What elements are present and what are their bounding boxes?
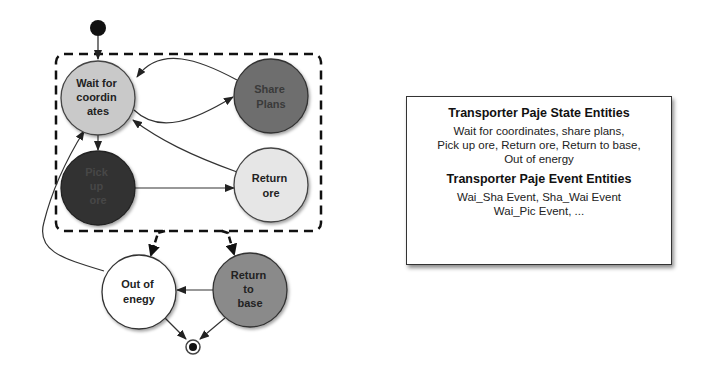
state-share-plans <box>234 59 308 133</box>
transition-return-base-to-final <box>200 318 225 339</box>
event-entities-title: Transporter Paje Event Entities <box>407 172 671 186</box>
transition-return-ore-to-wait <box>133 120 237 172</box>
state-out-of-energy <box>102 255 176 329</box>
state-entities-line: Pick up ore, Return ore, Return to base, <box>407 138 671 152</box>
state-return-ore <box>234 148 308 222</box>
initial-node <box>90 20 106 36</box>
event-entities-line: Wai_Pic Event, ... <box>407 204 671 218</box>
transition-composite-to-out-energy <box>151 231 165 255</box>
entities-legend-box: Transporter Paje State Entities Wait for… <box>406 96 672 265</box>
transition-out-energy-to-final <box>165 318 186 339</box>
transition-share-to-wait <box>137 58 237 80</box>
state-entities-line: Out of energy <box>407 152 671 166</box>
state-entities-line: Wait for coordinates, share plans, <box>407 124 671 138</box>
state-entities-list: Wait for coordinates, share plans, Pick … <box>407 124 671 166</box>
final-node <box>186 340 200 354</box>
transition-wait-to-share <box>134 97 233 123</box>
event-entities-list: Wai_Sha Event, Sha_Wai Event Wai_Pic Eve… <box>407 190 671 218</box>
state-entities-title: Transporter Paje State Entities <box>407 106 671 120</box>
event-entities-line: Wai_Sha Event, Sha_Wai Event <box>407 190 671 204</box>
transition-composite-to-return-base <box>222 231 234 254</box>
